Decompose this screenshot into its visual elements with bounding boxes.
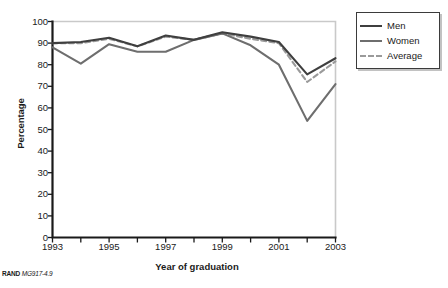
legend-item-average: Average	[360, 48, 435, 63]
x-tick-label: 1999	[202, 242, 242, 252]
chart-figure: Percentage Year of graduation 0102030405…	[0, 0, 448, 288]
x-tick-label: 1995	[89, 242, 129, 252]
legend-line-men-icon	[360, 21, 382, 31]
legend-item-women: Women	[360, 33, 435, 48]
chart-legend: Men Women Average	[356, 12, 440, 69]
legend-label-women: Women	[387, 35, 420, 46]
legend-item-men: Men	[360, 18, 435, 33]
legend-line-average-icon	[360, 51, 382, 61]
x-tick-label: 2003	[316, 242, 356, 252]
x-tick-label: 1993	[33, 242, 73, 252]
x-tick-label: 2001	[259, 242, 299, 252]
legend-label-average: Average	[387, 50, 422, 61]
x-tick-label: 1997	[146, 242, 186, 252]
figure-credit: RAND MG917-4.9	[2, 270, 53, 277]
credit-organization: RAND	[2, 270, 20, 277]
credit-figure-code: MG917-4.9	[22, 270, 53, 277]
legend-label-men: Men	[387, 20, 405, 31]
legend-line-women-icon	[360, 36, 382, 46]
